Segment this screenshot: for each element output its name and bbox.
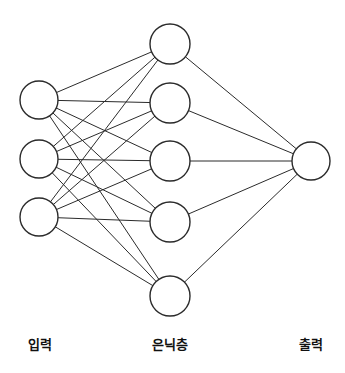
edge-hidden-node-1-to-output-node-1 — [185, 57, 296, 149]
edge-input-node-1-to-hidden-node-5 — [50, 116, 159, 280]
hidden-node-3 — [150, 141, 190, 181]
edge-input-node-3-to-hidden-node-4 — [58, 218, 150, 222]
neural-network-canvas: 입력은닉층출력 — [0, 0, 345, 373]
hidden-node-4 — [150, 202, 190, 242]
hidden-node-2 — [150, 83, 190, 123]
output-node-1 — [292, 142, 330, 180]
edge-input-node-3-to-hidden-node-5 — [55, 227, 153, 286]
hidden-node-1 — [150, 24, 190, 64]
edge-hidden-node-2-to-output-node-1 — [189, 111, 294, 154]
layer-label-input: 입력 — [28, 337, 53, 352]
neural-network-diagram: 입력은닉층출력 — [0, 0, 345, 373]
edge-input-node-2-to-hidden-node-4 — [56, 167, 152, 213]
layer-label-output: 출력 — [299, 337, 324, 352]
node-group — [20, 24, 330, 316]
edge-input-node-3-to-hidden-node-1 — [50, 60, 157, 202]
input-node-2 — [20, 140, 58, 178]
edge-hidden-node-5-to-output-node-1 — [184, 174, 297, 282]
layer-label-hidden: 은닉층 — [152, 337, 189, 352]
hidden-node-5 — [150, 276, 190, 316]
input-node-3 — [20, 198, 58, 236]
layer-label-group: 입력은닉층출력 — [28, 337, 324, 352]
edge-hidden-node-4-to-output-node-1 — [188, 169, 293, 215]
input-node-1 — [20, 81, 58, 119]
